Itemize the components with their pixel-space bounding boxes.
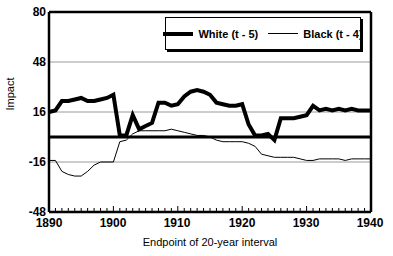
x-tick-label-1900: 1900 bbox=[83, 216, 143, 230]
x-tick-label-1890: 1890 bbox=[19, 216, 79, 230]
legend-entry-white: White (t - 5) bbox=[163, 28, 258, 40]
x-tick-label-1910: 1910 bbox=[147, 216, 207, 230]
legend-swatch-thick-line-icon bbox=[163, 32, 193, 36]
y-tick-label-48: 48 bbox=[12, 56, 46, 68]
y-tick-label-80: 80 bbox=[12, 6, 46, 18]
chart-figure: 80 48 16 -16 -48 1890 1900 1910 1920 193… bbox=[0, 0, 393, 256]
x-tick-label-1930: 1930 bbox=[276, 216, 336, 230]
y-tick-label-16: 16 bbox=[12, 106, 46, 118]
y-axis-title: Impact bbox=[4, 64, 16, 124]
legend-swatch-thin-line-icon bbox=[268, 33, 298, 34]
legend-label-black: Black (t - 4) bbox=[303, 28, 362, 40]
x-axis-title: Endpoint of 20-year interval bbox=[49, 236, 371, 248]
chart-legend: White (t - 5) Black (t - 4) bbox=[165, 17, 361, 50]
legend-label-white: White (t - 5) bbox=[198, 28, 258, 40]
x-tick-label-1940: 1940 bbox=[340, 216, 393, 230]
x-tick-label-1920: 1920 bbox=[212, 216, 272, 230]
legend-entry-black: Black (t - 4) bbox=[268, 28, 362, 40]
y-tick-label-neg16: -16 bbox=[12, 156, 46, 168]
